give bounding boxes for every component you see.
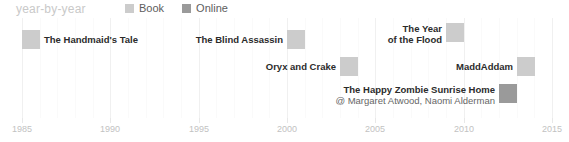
- timeline-mark[interactable]: [22, 30, 40, 49]
- gridline-minor: [181, 18, 182, 118]
- timeline-label: The Handmaid's Tale: [44, 34, 138, 45]
- timeline-mark[interactable]: [446, 23, 464, 42]
- gridline-major: [199, 18, 200, 118]
- year-by-year-timeline-chart: year-by-year Book Online The Handmaid's …: [0, 0, 569, 142]
- chart-legend: Book Online: [125, 3, 228, 14]
- timeline-label-subtitle: @ Margaret Atwood, Naomi Alderman: [335, 95, 495, 106]
- axis-tick: [464, 118, 465, 123]
- gridline-minor: [40, 18, 41, 118]
- timeline-label-line1: The Year: [403, 23, 442, 34]
- axis-tick: [199, 118, 200, 123]
- axis-tick: [375, 118, 376, 123]
- axis-tick: [22, 118, 23, 123]
- gridline-minor: [128, 18, 129, 118]
- timeline-label-title: MaddAddam: [456, 61, 513, 72]
- timeline-label: Oryx and Crake: [266, 61, 336, 72]
- square-swatch-icon: [182, 4, 191, 13]
- axis-tick: [287, 118, 288, 123]
- timeline-label-title: The Happy Zombie Sunrise Home: [344, 84, 496, 95]
- x-axis: 1985199019952000200520102015: [0, 118, 569, 142]
- gridline-major: [552, 18, 553, 118]
- axis-tick-label: 2015: [542, 124, 562, 134]
- gridline-major: [110, 18, 111, 118]
- legend-item-online[interactable]: Online: [182, 3, 228, 14]
- timeline-mark[interactable]: [287, 30, 305, 49]
- timeline-mark[interactable]: [340, 57, 358, 76]
- gridline-minor: [234, 18, 235, 118]
- axis-tick-label: 1995: [189, 124, 209, 134]
- gridline-minor: [75, 18, 76, 118]
- axis-tick-label: 1985: [12, 124, 32, 134]
- timeline-label-line2: of the Flood: [388, 34, 442, 45]
- timeline-label: The Happy Zombie Sunrise Home@ Margaret …: [335, 84, 495, 106]
- axis-tick-label: 2010: [454, 124, 474, 134]
- gridline-minor: [216, 18, 217, 118]
- timeline-label: The Yearof the Flood: [388, 23, 442, 45]
- timeline-label: MaddAddam: [456, 61, 513, 72]
- axis-tick-label: 1990: [100, 124, 120, 134]
- timeline-label-title: The Handmaid's Tale: [44, 34, 138, 45]
- gridline-minor: [252, 18, 253, 118]
- gridline-minor: [57, 18, 58, 118]
- gridline-minor: [146, 18, 147, 118]
- timeline-label-title: The Blind Assassin: [196, 34, 283, 45]
- timeline-mark[interactable]: [517, 57, 535, 76]
- gridline-minor: [93, 18, 94, 118]
- axis-tick: [552, 118, 553, 123]
- legend-item-book[interactable]: Book: [125, 3, 164, 14]
- plot-area: The Handmaid's TaleThe Blind AssassinOry…: [0, 18, 569, 118]
- axis-tick-label: 2005: [365, 124, 385, 134]
- timeline-mark[interactable]: [499, 84, 517, 103]
- timeline-label: The Blind Assassin: [196, 34, 283, 45]
- timeline-label-title: Oryx and Crake: [266, 61, 336, 72]
- square-swatch-icon: [125, 4, 134, 13]
- chart-title: year-by-year: [16, 2, 86, 16]
- legend-label-book: Book: [139, 3, 164, 14]
- axis-tick: [110, 118, 111, 123]
- gridline-minor: [163, 18, 164, 118]
- axis-tick-label: 2000: [277, 124, 297, 134]
- legend-label-online: Online: [196, 3, 228, 14]
